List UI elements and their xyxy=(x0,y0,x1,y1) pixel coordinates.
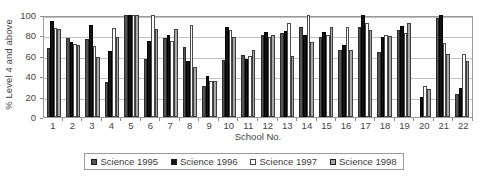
bar[interactable] xyxy=(232,37,236,117)
bar-group xyxy=(414,17,433,117)
x-axis-tick-mark xyxy=(102,118,122,122)
y-axis-tick-labels: 100806040200 xyxy=(14,10,40,122)
bar-group xyxy=(219,17,238,117)
bar[interactable] xyxy=(77,45,81,117)
bar-group xyxy=(394,17,413,117)
bar[interactable] xyxy=(96,57,100,117)
x-axis-tick-mark xyxy=(121,118,141,122)
bar-group xyxy=(239,17,258,117)
x-axis-tick-mark xyxy=(356,118,376,122)
legend-swatch-icon xyxy=(330,159,336,165)
x-axis-tick-marks xyxy=(43,118,473,122)
bar-group xyxy=(297,17,316,117)
bar-group xyxy=(44,17,63,117)
x-axis-tick-mark xyxy=(160,118,180,122)
bar-group xyxy=(180,17,199,117)
bar[interactable] xyxy=(291,56,295,117)
bar-group xyxy=(200,17,219,117)
x-axis-tick-mark xyxy=(395,118,415,122)
bar[interactable] xyxy=(174,29,178,117)
y-axis-tick-label: 20 xyxy=(25,93,36,103)
x-axis-tick-mark xyxy=(141,118,161,122)
bar-group xyxy=(122,17,141,117)
y-axis-tick-label: 0 xyxy=(31,113,36,123)
x-axis-tick-mark xyxy=(336,118,356,122)
y-axis-tick-label: 80 xyxy=(25,31,36,41)
y-axis-title-text: % Level 4 and above xyxy=(3,19,14,110)
bar[interactable] xyxy=(388,36,392,117)
legend-item[interactable]: Science 1995 xyxy=(91,156,158,167)
bar-groups xyxy=(44,17,472,117)
x-axis-tick-mark xyxy=(199,118,219,122)
bar-group xyxy=(355,17,374,117)
x-axis-tick-mark xyxy=(219,118,239,122)
plot-area xyxy=(43,16,473,118)
legend-swatch-icon xyxy=(91,159,97,165)
bar[interactable] xyxy=(466,61,470,117)
bar[interactable] xyxy=(427,89,431,117)
y-axis-tick-label: 60 xyxy=(25,52,36,62)
bar[interactable] xyxy=(252,50,256,117)
legend-label: Science 1998 xyxy=(339,156,397,167)
bar[interactable] xyxy=(116,37,120,117)
bar-group xyxy=(336,17,355,117)
x-axis-tick-mark xyxy=(317,118,337,122)
bar[interactable] xyxy=(407,23,411,117)
bar[interactable] xyxy=(57,29,61,117)
legend-swatch-icon xyxy=(250,159,256,165)
bar-group xyxy=(83,17,102,117)
legend-item[interactable]: Science 1998 xyxy=(330,156,397,167)
legend-label: Science 1997 xyxy=(259,156,317,167)
legend-label: Science 1995 xyxy=(100,156,158,167)
bar[interactable] xyxy=(369,30,373,117)
bar-group xyxy=(277,17,296,117)
bar[interactable] xyxy=(310,42,314,117)
bar-group xyxy=(433,17,452,117)
bar[interactable] xyxy=(213,81,217,117)
x-axis-tick-mark xyxy=(453,118,473,122)
x-axis-tick-mark xyxy=(258,118,278,122)
bar[interactable] xyxy=(446,54,450,117)
bar-group xyxy=(316,17,335,117)
bar-group xyxy=(102,17,121,117)
x-axis-title: School No. xyxy=(43,131,473,142)
x-axis-tick-mark xyxy=(238,118,258,122)
bar[interactable] xyxy=(271,35,275,117)
x-axis-tick-mark xyxy=(414,118,434,122)
bar[interactable] xyxy=(135,15,139,117)
legend-item[interactable]: Science 1997 xyxy=(250,156,317,167)
chart-legend: Science 1995Science 1996Science 1997Scie… xyxy=(84,153,404,170)
x-axis-tick-mark xyxy=(180,118,200,122)
bar-chart-figure: % Level 4 and above 100806040200 1234567… xyxy=(0,0,481,180)
y-axis-tick-label: 100 xyxy=(20,11,36,21)
x-axis-tick-mark xyxy=(63,118,83,122)
bar-group xyxy=(375,17,394,117)
x-axis-tick-mark xyxy=(297,118,317,122)
x-axis-tick-mark xyxy=(278,118,298,122)
bar-group xyxy=(161,17,180,117)
x-axis-tick-mark xyxy=(434,118,454,122)
bar[interactable] xyxy=(330,27,334,117)
y-axis-tick-label: 40 xyxy=(25,72,36,82)
bar[interactable] xyxy=(193,67,197,117)
x-axis-tick-mark xyxy=(43,118,63,122)
bar[interactable] xyxy=(155,29,159,117)
bar-group xyxy=(453,17,472,117)
bar-group xyxy=(63,17,82,117)
x-axis-tick-mark xyxy=(375,118,395,122)
legend-label: Science 1996 xyxy=(180,156,238,167)
bar-group xyxy=(141,17,160,117)
bar[interactable] xyxy=(349,50,353,117)
legend-swatch-icon xyxy=(171,159,177,165)
legend-item[interactable]: Science 1996 xyxy=(171,156,238,167)
x-axis-tick-mark xyxy=(82,118,102,122)
bar-group xyxy=(258,17,277,117)
